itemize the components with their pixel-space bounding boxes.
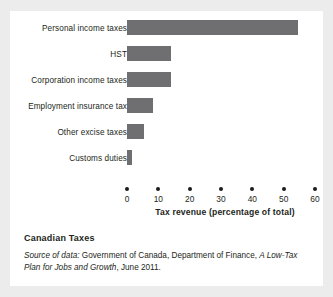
bar xyxy=(127,72,171,87)
axis-tick-dot xyxy=(156,187,160,191)
axis-tick-label: 50 xyxy=(272,194,296,204)
source-body: Government of Canada, Department of Fina… xyxy=(80,251,260,260)
category-label: Corporation income taxes xyxy=(31,75,127,84)
bar xyxy=(127,20,298,35)
figure-page: Personal income taxesHSTCorporation inco… xyxy=(0,0,333,297)
bar-row: Customs duties xyxy=(10,148,323,167)
bar xyxy=(127,46,171,61)
source-tail: , June 2011. xyxy=(116,263,160,272)
bar xyxy=(127,150,132,165)
axis-tick-label: 0 xyxy=(115,194,139,204)
bar xyxy=(127,98,153,113)
bar-row: Personal income taxes xyxy=(10,18,323,37)
source-lead: Source of data: xyxy=(24,251,80,260)
category-label: Personal income taxes xyxy=(42,23,127,32)
bar-row: Other excise taxes xyxy=(10,122,323,141)
axis-tick-dot xyxy=(219,187,223,191)
axis-tick-dot xyxy=(282,187,286,191)
bar xyxy=(127,124,144,139)
axis-tick-label: 60 xyxy=(303,194,323,204)
axis-tick-label: 40 xyxy=(240,194,264,204)
category-label: Employment insurance tax xyxy=(28,101,127,110)
caption-source: Source of data: Government of Canada, De… xyxy=(24,250,312,274)
axis-tick-label: 20 xyxy=(178,194,202,204)
axis-tick-label: 30 xyxy=(209,194,233,204)
caption-title: Canadian Taxes xyxy=(24,233,312,243)
bar-row: HST xyxy=(10,44,323,63)
x-axis: Tax revenue (percentage of total) 010203… xyxy=(10,187,323,223)
bar-row: Employment insurance tax xyxy=(10,96,323,115)
axis-tick-label: 10 xyxy=(146,194,170,204)
figure-card: Personal income taxesHSTCorporation inco… xyxy=(10,11,323,286)
bar-row: Corporation income taxes xyxy=(10,70,323,89)
axis-tick-dot xyxy=(313,187,317,191)
category-label: Customs duties xyxy=(69,153,127,162)
category-label: Other excise taxes xyxy=(57,127,127,136)
x-axis-title: Tax revenue (percentage of total) xyxy=(127,207,323,217)
axis-tick-dot xyxy=(188,187,192,191)
axis-tick-dot xyxy=(250,187,254,191)
category-label: HST xyxy=(110,49,127,58)
axis-tick-dot xyxy=(125,187,129,191)
figure-caption: Canadian Taxes Source of data: Governmen… xyxy=(24,233,312,274)
